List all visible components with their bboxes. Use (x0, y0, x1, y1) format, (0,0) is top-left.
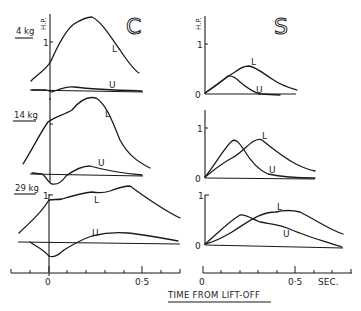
load-label-29kg-c: 29 kg (15, 183, 39, 193)
curve-label-L: L (112, 44, 117, 54)
curve-L-s-14kg (205, 139, 315, 177)
y-tick-label-1: 1 (197, 40, 203, 50)
plot-c-14kg: 14 kg L U (13, 98, 150, 185)
curve-U-s-29kg (205, 215, 342, 247)
curve-L-s-4kg (205, 66, 297, 93)
curve-label-L: L (262, 131, 267, 141)
panel-letter-s: S (274, 14, 288, 39)
y-tick-label-0: 0 (195, 90, 201, 100)
x-unit-label: SEC. (318, 277, 339, 287)
plot-c-4kg: 4 kg H.P. 1 L U (15, 14, 143, 100)
baseline-c-29kg (18, 242, 180, 244)
x-tick-label-0: 0 (45, 277, 51, 287)
x-tick-label-0.5: 0·5 (288, 277, 302, 287)
baseline-s-29kg (205, 245, 343, 248)
curve-L-s-29kg (205, 211, 343, 245)
x-axis-c: 0 0·5 (11, 266, 180, 287)
plot-c-29kg: 29 kg 1 L U (14, 183, 180, 272)
curve-label-L: L (94, 195, 99, 205)
y-tick-label-0: 0 (195, 174, 201, 184)
curve-label-U: U (256, 85, 263, 95)
curve-label-L: L (105, 109, 110, 119)
x-axis-title: TIME FROM LIFT-OFF (167, 290, 260, 300)
curve-label-U: U (283, 229, 290, 239)
baseline-c-14kg (30, 174, 143, 176)
load-label-14kg-c: 14 kg (14, 110, 38, 120)
y-tick-label-1: 1 (43, 191, 49, 201)
curve-label-L: L (251, 57, 256, 67)
y-tick-label-0: 0 (195, 241, 201, 251)
load-label-4kg-c: 4 kg (16, 26, 34, 36)
y-tick-label-1: 1 (43, 38, 49, 48)
curve-L-c-14kg (23, 98, 150, 169)
x-tick-label-0.5: 0·5 (135, 277, 149, 287)
curve-label-U: U (269, 165, 276, 175)
x-axis-s: 0 0·5 SEC. (199, 266, 352, 287)
curve-label-U: U (109, 80, 116, 90)
y-tick-label-1: 1 (197, 124, 203, 134)
curve-label-U: U (92, 228, 99, 238)
plot-s-29kg: 1 0 L U (195, 191, 343, 251)
y-tick-label-1: 1 (198, 191, 204, 201)
curve-label-U: U (98, 158, 105, 168)
y-unit-label-c: H.P. (40, 17, 48, 30)
panel-letter-c: C (126, 14, 141, 39)
curve-U-s-4kg (205, 76, 280, 95)
curve-U-s-14kg (205, 140, 315, 178)
x-tick-label-0: 0 (199, 277, 205, 287)
curve-label-L: L (277, 202, 282, 212)
plot-s-14kg: 1 0 L U (195, 110, 315, 184)
curve-U-c-29kg (30, 233, 178, 257)
y-unit-label-s: H.P. (195, 17, 203, 30)
figure: C 4 kg H.P. 1 L U 14 kg L U 29 kg 1 L (0, 0, 361, 311)
